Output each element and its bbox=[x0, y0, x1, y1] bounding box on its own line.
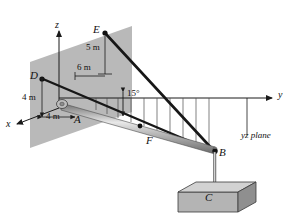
yz-plane-label: yz plane bbox=[241, 131, 271, 140]
point-D-marker bbox=[39, 76, 44, 81]
y-axis-label: y bbox=[278, 90, 282, 100]
dimension-label-4m-vertical: 4 m bbox=[22, 93, 36, 102]
point-label-A: A bbox=[74, 114, 81, 125]
point-label-E: E bbox=[93, 24, 100, 35]
hanger-cable bbox=[213, 152, 216, 186]
x-axis-label: x bbox=[6, 119, 10, 129]
point-F-marker bbox=[138, 124, 143, 129]
point-label-B: B bbox=[219, 147, 226, 158]
dimension-label-6m: 6 m bbox=[77, 63, 91, 72]
point-label-F: F bbox=[146, 135, 153, 146]
angle-label-15deg: 15° bbox=[127, 89, 140, 98]
dimension-label-4m-horizontal: 4 m bbox=[46, 112, 60, 121]
support-bracket-A bbox=[57, 100, 68, 109]
z-axis-label: z bbox=[55, 20, 59, 30]
point-label-C: C bbox=[205, 192, 212, 203]
engineering-diagram: z y x D E A F B C 4 m 4 m 5 m 6 m 15° yz… bbox=[0, 0, 299, 223]
dimension-label-5m: 5 m bbox=[86, 43, 100, 52]
point-label-D: D bbox=[30, 70, 38, 81]
point-E-marker bbox=[102, 30, 107, 35]
crate-C bbox=[178, 182, 256, 212]
diagram-canvas bbox=[0, 0, 299, 223]
